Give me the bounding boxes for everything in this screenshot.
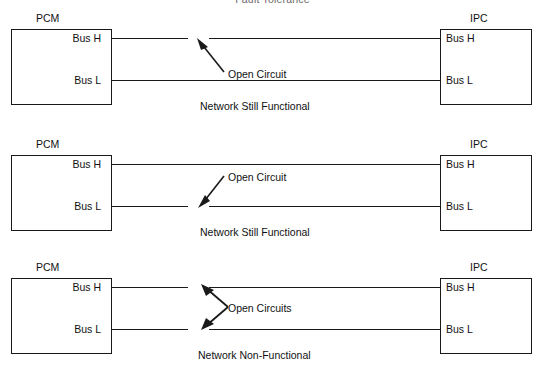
panel2-fault-label: Open Circuit (228, 171, 286, 183)
panel2-left-module-label: PCM (36, 138, 59, 150)
panel3-ipc-bus-l-label: Bus L (446, 323, 473, 335)
panel2-status-caption: Network Still Functional (200, 226, 310, 238)
panel1-bus-h-wire-left-segment (112, 38, 188, 39)
panel2-bus-h-wire (112, 164, 440, 165)
panel2-ipc-bus-h-label: Bus H (446, 158, 475, 170)
panel3-status-caption: Network Non-Functional (198, 349, 311, 361)
panel2-pcm-bus-l-label: Bus L (74, 200, 101, 212)
fault-tolerance-diagram: Fault Tolerance PCM IPC Bus H Bus L Bus … (0, 0, 545, 370)
panel1-fault-label: Open Circuit (228, 68, 286, 80)
panel3-fault-label: Open Circuits (228, 302, 292, 314)
panel3-ipc-bus-h-label: Bus H (446, 281, 475, 293)
panel1-status-caption: Network Still Functional (200, 100, 310, 112)
panel1-bus-l-wire (112, 80, 440, 81)
panel2-ipc-bus-l-label: Bus L (446, 200, 473, 212)
panel3-bus-l-wire-left-segment (112, 329, 188, 330)
diagram-title: Fault Tolerance (0, 0, 545, 5)
panel1-pcm-bus-h-label: Bus H (72, 32, 101, 44)
panel-open-circuits-both: PCM IPC Bus H Bus L Bus H Bus L Open Cir… (0, 257, 545, 370)
panel2-right-module-label: IPC (470, 138, 488, 150)
panel2-bus-l-wire-left-segment (112, 206, 188, 207)
panel-open-circuit-bus-l: PCM IPC Bus H Bus L Bus H Bus L Open Cir… (0, 134, 545, 254)
panel3-right-module-label: IPC (470, 261, 488, 273)
panel3-left-module-label: PCM (36, 261, 59, 273)
panel2-pcm-bus-h-label: Bus H (72, 158, 101, 170)
panel1-ipc-bus-l-label: Bus L (446, 74, 473, 86)
panel3-pcm-bus-l-label: Bus L (74, 323, 101, 335)
panel1-ipc-bus-h-label: Bus H (446, 32, 475, 44)
panel1-left-module-label: PCM (36, 12, 59, 24)
panel-open-circuit-bus-h: PCM IPC Bus H Bus L Bus H Bus L Open Cir… (0, 8, 545, 128)
panel3-pcm-bus-h-label: Bus H (72, 281, 101, 293)
panel3-bus-h-wire-left-segment (112, 287, 188, 288)
panel1-right-module-label: IPC (470, 12, 488, 24)
panel1-pcm-bus-l-label: Bus L (74, 74, 101, 86)
